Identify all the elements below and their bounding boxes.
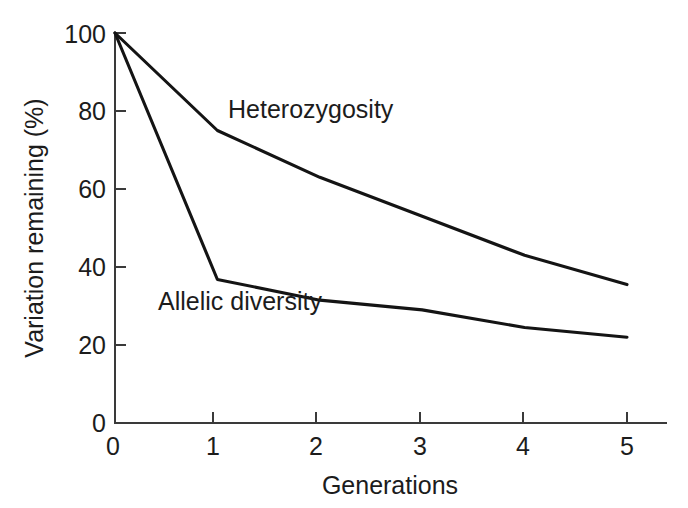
x-tick-label-1: 1 [206, 432, 220, 460]
y-tick-label-60: 60 [78, 175, 106, 203]
x-axis-ticks [115, 412, 627, 423]
chart-figure: 0 20 40 60 80 100 0 1 2 3 4 5 Generation… [0, 0, 688, 508]
y-tick-label-40: 40 [78, 253, 106, 281]
y-axis-ticks [115, 33, 126, 423]
series-label-heterozygosity: Heterozygosity [228, 95, 394, 123]
series-line-heterozygosity [115, 33, 627, 285]
x-tick-label-5: 5 [620, 432, 634, 460]
x-axis-title: Generations [322, 471, 458, 499]
x-tick-label-2: 2 [309, 432, 323, 460]
y-tick-label-20: 20 [78, 331, 106, 359]
y-axis-title: Variation remaining (%) [20, 98, 48, 357]
x-tick-label-3: 3 [413, 432, 427, 460]
line-chart: 0 20 40 60 80 100 0 1 2 3 4 5 Generation… [0, 0, 688, 508]
y-tick-label-100: 100 [64, 20, 106, 48]
y-tick-label-80: 80 [78, 97, 106, 125]
x-tick-label-4: 4 [516, 432, 530, 460]
y-tick-label-0: 0 [92, 409, 106, 437]
x-tick-label-0: 0 [106, 432, 120, 460]
series-label-allelic-diversity: Allelic diversity [158, 287, 322, 315]
